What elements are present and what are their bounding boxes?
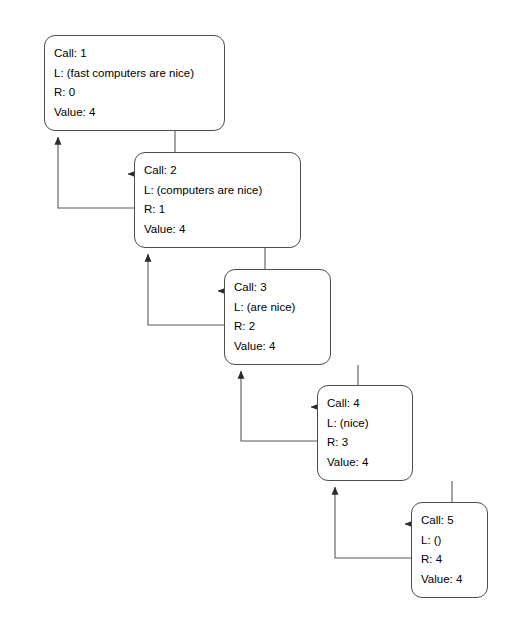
call-frame-5-result: R: 4 xyxy=(421,550,487,570)
call-frame-3-value: Value: 4 xyxy=(234,337,330,357)
call-frame-3-result: R: 2 xyxy=(234,317,330,337)
call-frame-1-result: R: 0 xyxy=(54,83,224,103)
edge-return-4-to-3 xyxy=(241,371,317,441)
call-frame-5-value: Value: 4 xyxy=(421,570,487,590)
edge-return-3-to-2 xyxy=(148,254,224,325)
call-frame-5: Call: 5 L: () R: 4 Value: 4 xyxy=(411,502,488,598)
call-frame-2-value: Value: 4 xyxy=(144,220,300,240)
call-frame-4-result: R: 3 xyxy=(327,433,412,453)
call-frame-2: Call: 2 L: (computers are nice) R: 1 Val… xyxy=(134,152,301,248)
call-frame-5-call: Call: 5 xyxy=(421,511,487,531)
call-frame-2-list: L: (computers are nice) xyxy=(144,181,300,201)
call-frame-4-list: L: (nice) xyxy=(327,414,412,434)
call-frame-1-call: Call: 1 xyxy=(54,44,224,64)
edge-return-5-to-4 xyxy=(335,487,411,558)
call-frame-4-value: Value: 4 xyxy=(327,453,412,473)
call-frame-5-list: L: () xyxy=(421,531,487,551)
call-frame-3-call: Call: 3 xyxy=(234,278,330,298)
call-frame-4: Call: 4 L: (nice) R: 3 Value: 4 xyxy=(317,385,413,481)
call-frame-1-list: L: (fast computers are nice) xyxy=(54,64,224,84)
call-frame-3-list: L: (are nice) xyxy=(234,298,330,318)
call-frame-4-call: Call: 4 xyxy=(327,394,412,414)
call-frame-1-value: Value: 4 xyxy=(54,103,224,123)
edge-return-2-to-1 xyxy=(58,137,134,208)
call-frame-1: Call: 1 L: (fast computers are nice) R: … xyxy=(44,35,225,131)
call-frame-2-call: Call: 2 xyxy=(144,161,300,181)
call-trace-diagram: Call: 1 L: (fast computers are nice) R: … xyxy=(0,0,513,624)
call-frame-3: Call: 3 L: (are nice) R: 2 Value: 4 xyxy=(224,269,331,365)
call-frame-2-result: R: 1 xyxy=(144,200,300,220)
